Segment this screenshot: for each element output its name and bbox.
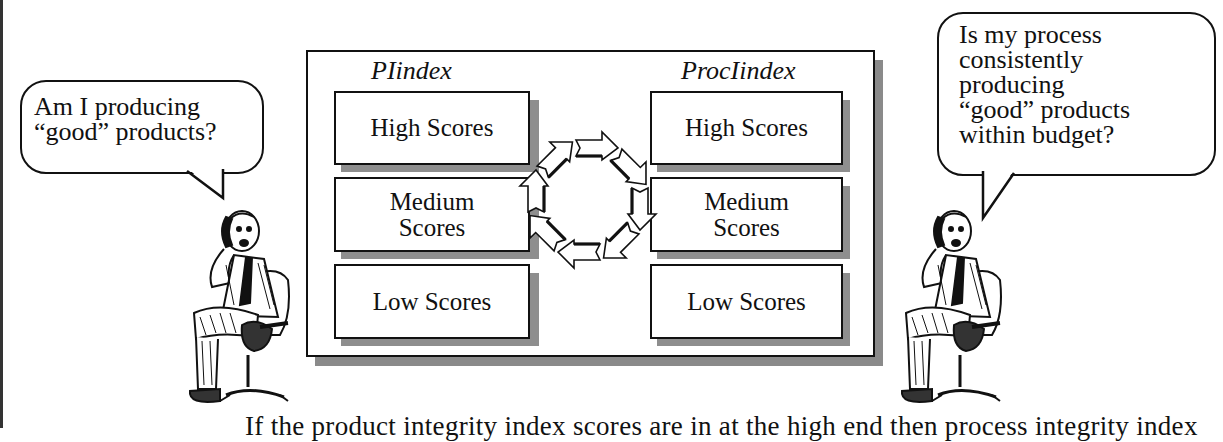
proc-high-scores-box: High Scores bbox=[650, 91, 843, 165]
pi-high-scores-label: High Scores bbox=[371, 115, 494, 141]
cycle-arrows-icon bbox=[508, 118, 668, 283]
right-bubble-line-3: producing bbox=[959, 72, 1130, 97]
caption-text: If the product integrity index scores ar… bbox=[245, 411, 1198, 442]
proc-high-scores-label: High Scores bbox=[685, 115, 808, 141]
pi-index-title: PIindex bbox=[371, 57, 452, 85]
right-bubble-line-2: consistently bbox=[959, 47, 1130, 72]
right-bubble-line-5: within budget? bbox=[959, 122, 1130, 147]
pi-low-scores-label: Low Scores bbox=[373, 289, 492, 315]
pi-medium-scores-label-1: Medium bbox=[390, 189, 475, 215]
proc-medium-scores-box: Medium Scores bbox=[650, 177, 843, 252]
proc-low-scores-label: Low Scores bbox=[687, 289, 806, 315]
right-bubble-line-4: “good” products bbox=[959, 97, 1130, 122]
left-bubble-tail bbox=[185, 168, 235, 202]
left-speech-bubble: Am I producing “good” products? bbox=[20, 80, 264, 174]
left-bubble-line-1: Am I producing bbox=[34, 94, 217, 119]
pi-medium-scores-box: Medium Scores bbox=[334, 177, 530, 252]
right-bubble-line-1: Is my process bbox=[959, 22, 1130, 47]
proc-index-title: ProcIindex bbox=[681, 57, 796, 85]
proc-low-scores-box: Low Scores bbox=[650, 264, 843, 339]
pi-low-scores-box: Low Scores bbox=[334, 264, 530, 339]
pi-high-scores-box: High Scores bbox=[334, 91, 530, 165]
pi-medium-scores-label-2: Scores bbox=[390, 215, 475, 241]
right-speech-bubble: Is my process consistently producing “go… bbox=[937, 12, 1216, 176]
left-businessman-on-phone-icon bbox=[160, 205, 300, 415]
proc-medium-scores-label-2: Scores bbox=[704, 215, 789, 241]
proc-medium-scores-label-1: Medium bbox=[704, 189, 789, 215]
page-left-border bbox=[0, 0, 3, 428]
left-bubble-line-2: “good” products? bbox=[34, 119, 217, 144]
right-businessman-on-phone-icon bbox=[872, 205, 1012, 415]
